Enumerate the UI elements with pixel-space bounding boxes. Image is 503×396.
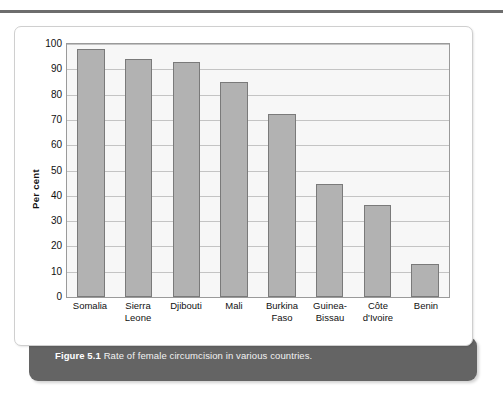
bar-series bbox=[67, 44, 449, 297]
bar-slot bbox=[258, 44, 306, 297]
bar-slot bbox=[115, 44, 163, 297]
y-tick-20: 20 bbox=[51, 240, 62, 251]
x-label-burkina-faso: BurkinaFaso bbox=[258, 300, 306, 324]
bar-slot bbox=[67, 44, 115, 297]
figure-page: Per cent 1009080706050403020100 SomaliaS… bbox=[0, 0, 503, 396]
y-tick-60: 60 bbox=[51, 139, 62, 150]
y-tick-70: 70 bbox=[51, 113, 62, 124]
x-label-benin: Benin bbox=[402, 300, 450, 324]
x-label-djibouti: Djibouti bbox=[162, 300, 210, 324]
gridline-0 bbox=[67, 297, 449, 298]
x-label-guinea-bissau: Guinea-Bissau bbox=[306, 300, 354, 324]
x-label-c-te-d-ivoire: Côted'Ivoire bbox=[354, 300, 402, 324]
bar-djibouti bbox=[173, 62, 201, 297]
page-top-rule bbox=[0, 10, 503, 13]
y-axis-tick-labels: 1009080706050403020100 bbox=[36, 37, 62, 296]
x-label-somalia: Somalia bbox=[66, 300, 114, 324]
bar-somalia bbox=[77, 49, 105, 297]
y-tick-0: 0 bbox=[56, 291, 62, 302]
x-label-mali: Mali bbox=[210, 300, 258, 324]
y-tick-50: 50 bbox=[51, 164, 62, 175]
x-axis-tick-labels: SomaliaSierraLeoneDjiboutiMaliBurkinaFas… bbox=[66, 300, 450, 324]
y-tick-10: 10 bbox=[51, 265, 62, 276]
y-tick-90: 90 bbox=[51, 63, 62, 74]
figure-caption: Figure 5.1 Rate of female circumcision i… bbox=[55, 350, 455, 361]
bar-slot bbox=[163, 44, 211, 297]
bar-mali bbox=[220, 82, 248, 297]
bar-slot bbox=[306, 44, 354, 297]
bar-slot bbox=[354, 44, 402, 297]
bar-chart: Per cent 1009080706050403020100 SomaliaS… bbox=[14, 26, 471, 344]
bar-benin bbox=[411, 264, 439, 297]
figure-caption-body: Rate of female circumcision in various c… bbox=[104, 350, 313, 361]
bar-c-te-d-ivoire bbox=[364, 205, 392, 297]
y-tick-80: 80 bbox=[51, 88, 62, 99]
bar-guinea-bissau bbox=[316, 184, 344, 297]
plot-area bbox=[66, 43, 450, 298]
bar-slot bbox=[210, 44, 258, 297]
y-tick-40: 40 bbox=[51, 189, 62, 200]
y-tick-100: 100 bbox=[45, 38, 62, 49]
y-tick-30: 30 bbox=[51, 215, 62, 226]
bar-burkina-faso bbox=[268, 114, 296, 297]
figure-caption-label: Figure 5.1 bbox=[55, 350, 101, 361]
bar-sierra-leone bbox=[125, 59, 153, 297]
x-label-sierra-leone: SierraLeone bbox=[114, 300, 162, 324]
bar-slot bbox=[401, 44, 449, 297]
